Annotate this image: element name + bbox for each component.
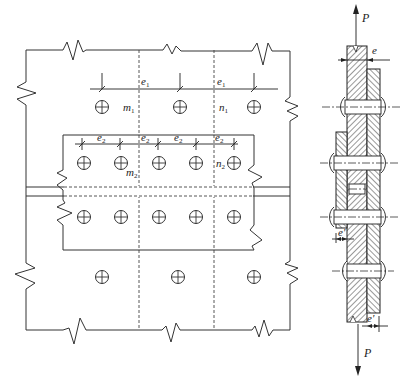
label-load-bottom: P: [363, 346, 372, 360]
bolt-icon: [115, 211, 128, 224]
bolt-icon: [172, 271, 185, 284]
bolt-icon: [174, 101, 187, 114]
section-slot: [349, 184, 365, 194]
bolt-icon: [228, 211, 241, 224]
label-n2: n2: [216, 157, 226, 171]
label-e2: e2: [97, 131, 106, 145]
bolt-icon: [190, 211, 203, 224]
bolt-icon: [190, 157, 203, 170]
bolt-icon: [248, 101, 261, 114]
label-m1: m1: [123, 101, 135, 115]
label-e1-left: e1: [141, 75, 150, 89]
bolt-icon: [153, 157, 166, 170]
label-e2: e2: [215, 131, 224, 145]
section-bolt-2: [320, 153, 400, 173]
bolt-icon: [78, 157, 91, 170]
section-bolt-3: [320, 207, 400, 227]
label-e-prime-bottom: e': [367, 312, 375, 324]
label-m2: m2: [126, 166, 138, 180]
splice-diagram: e1 e1 m1 n1 e2 e2 e2 e2: [0, 0, 409, 381]
label-e-top: e: [372, 44, 377, 56]
arrow-down-icon: [355, 366, 361, 376]
bolt-icon: [153, 211, 166, 224]
label-e-prime-mid: e': [338, 226, 346, 238]
section-bolt-1: [322, 97, 400, 117]
bolt-icon: [228, 157, 241, 170]
arrow-up-icon: [353, 4, 359, 14]
bolt-icon: [78, 211, 91, 224]
label-e1-right: e1: [217, 75, 226, 89]
label-n1: n1: [219, 101, 229, 115]
bolt-icon: [248, 271, 261, 284]
plan-view: e1 e1 m1 n1 e2 e2 e2 e2: [15, 40, 298, 344]
label-e2: e2: [141, 131, 150, 145]
section-view: P e: [320, 4, 400, 376]
bolt-icon: [96, 101, 109, 114]
label-e2: e2: [174, 131, 183, 145]
label-load-top: P: [361, 11, 370, 25]
section-bolt-4: [332, 261, 394, 281]
bolt-icon: [96, 271, 109, 284]
